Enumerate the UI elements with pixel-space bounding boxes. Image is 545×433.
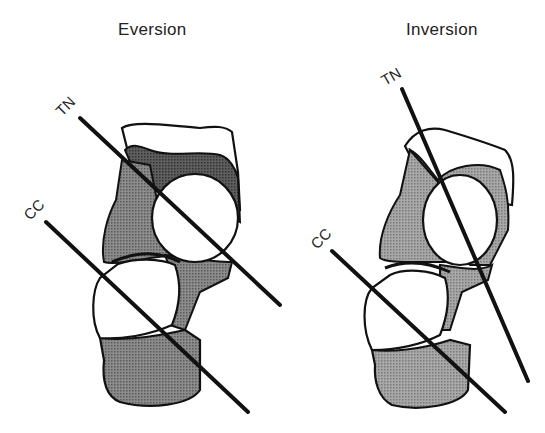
eversion-cc-label: CC xyxy=(20,196,47,223)
inversion-cc-label: CC xyxy=(307,225,334,252)
eversion-tn-label: TN xyxy=(52,93,78,119)
foot-joint-diagram: TN CC TN CC xyxy=(0,0,545,433)
inversion-tn-label: TN xyxy=(378,64,404,89)
eversion-foot-bones xyxy=(93,124,240,406)
